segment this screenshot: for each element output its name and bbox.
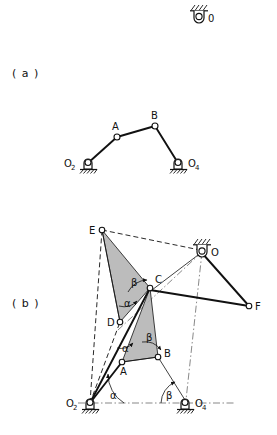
- label-O2-a-sub: 2: [71, 164, 75, 172]
- label-D-b: D: [107, 317, 115, 328]
- label-alpha-O2: α: [110, 390, 117, 401]
- label-alpha-D: α: [124, 298, 131, 309]
- label-C-b: C: [155, 274, 162, 285]
- label-A-a: A: [112, 121, 119, 132]
- figure-background: [0, 0, 277, 435]
- label-B-a: B: [151, 110, 158, 121]
- part-b-caption: ( b ): [12, 297, 40, 310]
- legend-pivot-label: 0: [208, 13, 214, 24]
- label-A-b: A: [120, 366, 127, 377]
- label-O-b: O: [211, 247, 219, 258]
- label-O4-b-sub: 4: [202, 404, 207, 412]
- label-beta-O4: β: [166, 390, 172, 401]
- legend-pivot-bracket: [194, 11, 204, 23]
- label-beta-B: β: [146, 332, 152, 343]
- label-O4-a-sub: 4: [195, 164, 200, 172]
- joint-B-a: B: [151, 110, 158, 129]
- mechanism-figure: 0 ( a ) O 2 A: [0, 0, 277, 435]
- label-F-b: F: [255, 301, 261, 312]
- label-B-b: B: [164, 348, 171, 359]
- label-alpha-A: α: [122, 343, 129, 354]
- label-beta-C: β: [131, 277, 137, 288]
- part-a-caption: ( a ): [12, 67, 39, 80]
- label-O2-b-sub: 2: [73, 404, 77, 412]
- label-E-b: E: [89, 225, 95, 236]
